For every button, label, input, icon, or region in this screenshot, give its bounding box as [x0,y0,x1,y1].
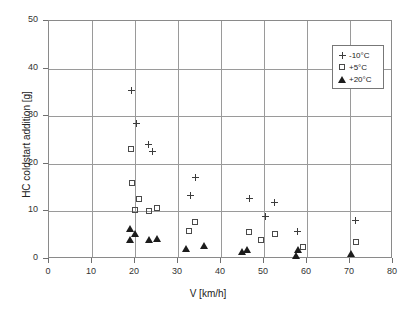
data-point-triangle [338,76,346,83]
legend-item: +5°C [337,61,380,73]
gridline-horizontal [49,116,391,117]
gridline-vertical [221,21,222,257]
y-tick-label: 50 [10,14,38,24]
data-point-triangle [347,250,355,257]
data-point-plus [352,217,359,224]
gridline-horizontal [49,164,391,165]
y-tick [43,163,48,164]
legend-swatch-square-icon [337,62,347,72]
data-point-square [339,64,345,70]
legend-label: +5°C [349,63,367,72]
data-point-plus [262,213,269,220]
x-tick [48,258,49,263]
data-point-square [128,146,134,152]
data-point-square [132,207,138,213]
data-point-square [272,231,278,237]
data-point-plus [149,148,156,155]
data-point-plus [133,120,140,127]
legend-item: +20°C [337,73,380,85]
data-point-triangle [153,235,161,242]
data-point-triangle [200,242,208,249]
x-tick-label: 0 [33,266,63,276]
legend-item: -10°C [337,49,380,61]
data-point-plus [128,87,135,94]
data-point-square [192,219,198,225]
data-point-plus [339,52,346,59]
data-point-triangle [131,230,139,237]
x-tick-label: 80 [377,266,407,276]
x-tick-label: 50 [248,266,278,276]
y-tick [43,210,48,211]
x-tick [134,258,135,263]
x-tick [91,258,92,263]
gridline-vertical [178,21,179,257]
legend-swatch-plus-icon [337,50,347,60]
gridline-vertical [135,21,136,257]
data-point-square [353,239,359,245]
data-point-plus [192,174,199,181]
data-point-plus [294,228,301,235]
data-point-plus [246,195,253,202]
x-tick-label: 30 [162,266,192,276]
data-point-square [154,205,160,211]
data-point-square [246,229,252,235]
data-point-plus [187,192,194,199]
gridline-vertical [92,21,93,257]
y-tick-label: 0 [10,252,38,262]
x-tick-label: 40 [205,266,235,276]
data-point-square [186,228,192,234]
gridline-horizontal [49,211,391,212]
gridline-vertical [264,21,265,257]
data-point-square [258,237,264,243]
data-point-triangle [182,245,190,252]
x-tick [349,258,350,263]
legend-label: +20°C [349,75,372,84]
x-tick-label: 70 [334,266,364,276]
data-point-square [136,196,142,202]
x-tick [263,258,264,263]
x-tick [177,258,178,263]
y-axis-label: HC coldstart addition [g] [21,55,32,235]
x-tick-label: 10 [76,266,106,276]
y-tick [43,20,48,21]
legend-swatch-triangle-icon [337,74,347,84]
data-point-square [146,208,152,214]
chart-figure: 01020304050607080 01020304050 V [km/h] H… [0,0,416,312]
x-tick-label: 20 [119,266,149,276]
x-tick-label: 60 [291,266,321,276]
x-tick [220,258,221,263]
chart-legend: -10°C+5°C+20°C [332,45,384,89]
x-axis-label: V [km/h] [0,288,416,299]
x-tick [392,258,393,263]
y-tick [43,68,48,69]
data-point-square [129,180,135,186]
y-tick [43,115,48,116]
data-point-triangle [243,246,251,253]
data-point-triangle [294,246,302,253]
y-tick [43,258,48,259]
data-point-plus [271,199,278,206]
x-tick [306,258,307,263]
legend-label: -10°C [349,51,370,60]
gridline-vertical [307,21,308,257]
data-point-triangle [145,236,153,243]
